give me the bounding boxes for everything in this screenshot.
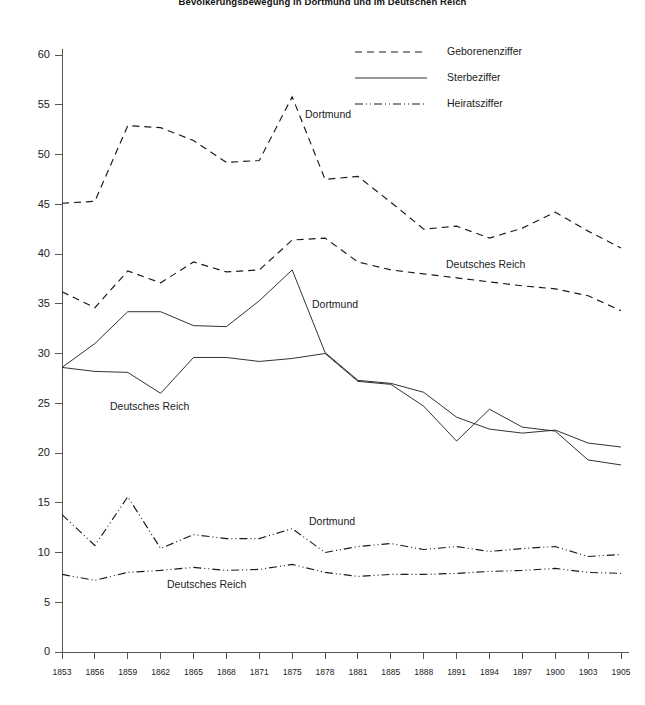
annotation-label: Deutsches Reich [110,400,190,412]
x-tick-label: 1865 [184,667,203,677]
x-tick-label: 1891 [447,667,466,677]
x-tick-label: 1871 [250,667,269,677]
y-axis: 051015202530354045505560 [38,48,62,657]
series-lines [62,97,621,581]
y-tick-label: 50 [38,148,50,160]
legend-label-sterbeziffer: Sterbeziffer [447,71,501,83]
y-tick-label: 0 [44,645,50,657]
y-tick-label: 45 [38,198,50,210]
y-tick-label: 20 [38,446,50,458]
annotation-label: Dortmund [312,298,358,310]
series-annotations: DortmundDeutsches ReichDortmundDeutsches… [110,108,526,590]
y-tick-label: 40 [38,247,50,259]
annotation-label: Dortmund [305,108,351,120]
x-tick-label: 1853 [53,667,72,677]
x-tick-label: 1856 [85,667,104,677]
x-tick-label: 1875 [283,667,302,677]
x-tick-label: 1859 [118,667,137,677]
x-tick-label: 1894 [480,667,499,677]
annotation-label: Deutsches Reich [446,258,526,270]
x-tick-label: 1881 [348,667,367,677]
series-line-heiratsziffer-deutsches-reich [62,564,621,580]
x-tick-label: 1897 [513,667,532,677]
y-tick-label: 15 [38,496,50,508]
x-tick-label: 1900 [546,667,565,677]
chart-plot-area: 051015202530354045505560 185318561859186… [0,0,645,705]
series-line-sterbeziffer-dortmund [62,270,621,447]
legend-label-heiratsziffer: Heiratsziffer [447,97,503,109]
y-tick-label: 60 [38,48,50,60]
x-tick-label: 1868 [217,667,236,677]
x-tick-label: 1878 [316,667,335,677]
annotation-label: Deutsches Reich [167,578,247,590]
y-tick-label: 5 [44,596,50,608]
legend-label-geborenenziffer: Geborenenziffer [447,45,523,57]
x-tick-label: 1888 [414,667,433,677]
chart-legend: GeborenenzifferSterbezifferHeiratsziffer [355,45,523,109]
x-tick-label: 1903 [579,667,598,677]
x-tick-label: 1862 [151,667,170,677]
y-tick-label: 10 [38,546,50,558]
y-tick-label: 35 [38,297,50,309]
annotation-label: Dortmund [309,515,355,527]
y-tick-label: 55 [38,98,50,110]
x-axis: 1853185618591862186518681871187518781881… [53,652,631,677]
y-tick-label: 25 [38,397,50,409]
y-tick-label: 30 [38,347,50,359]
x-tick-label: 1885 [381,667,400,677]
chart-container: Bevölkerungsbewegung in Dortmund und im … [0,0,645,705]
x-tick-label: 1905 [612,667,631,677]
